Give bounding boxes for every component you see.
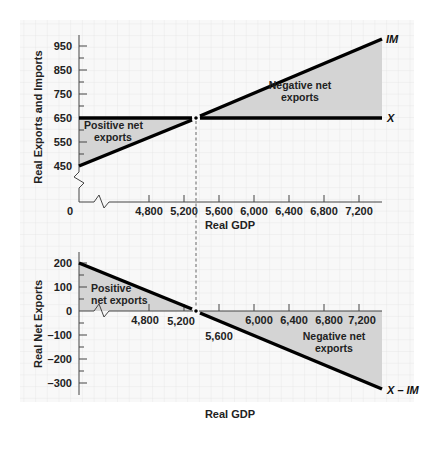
y-tick-550: 550 — [54, 136, 72, 148]
x-tick-4800: 4,800 — [135, 205, 163, 217]
bottom-negative-label-line2: exports — [315, 342, 353, 354]
top-x-axis-title: Real GDP — [205, 219, 255, 231]
bottom-x-tick-5600: 5,600 — [205, 330, 233, 342]
y-tick-minus300: –300 — [48, 377, 72, 389]
bottom-positive-label-line1: Positive — [91, 282, 131, 294]
x-tick-6000: 6,000 — [240, 205, 268, 217]
top-positive-label-line2: exports — [94, 131, 132, 143]
chart-canvas: 950 850 750 650 550 450 0 4,800 5,200 5,… — [0, 0, 444, 457]
bottom-x-tick-5200: 5,200 — [167, 315, 195, 327]
y-tick-850: 850 — [54, 64, 72, 76]
y-tick-950: 950 — [54, 40, 72, 52]
x-tick-5600: 5,600 — [205, 205, 233, 217]
intersection-point — [194, 116, 199, 121]
bottom-y-axis-title: Real Net Exports — [32, 280, 44, 368]
y-tick-200: 200 — [54, 257, 72, 269]
bottom-x-axis-title: Real GDP — [205, 408, 255, 420]
x-curve-label: X — [386, 112, 395, 124]
top-negative-label-line2: exports — [281, 91, 319, 103]
bottom-x-tick-7200: 7,200 — [348, 314, 376, 326]
top-positive-label-line1: Positive net — [84, 119, 143, 131]
bottom-x-tick-4800: 4,800 — [131, 314, 159, 326]
top-y-axis-title: Real Exports and Imports — [32, 50, 44, 183]
bottom-positive-label-line2: net exports — [91, 294, 148, 306]
y-tick-minus200: –200 — [48, 353, 72, 365]
x-tick-5200: 5,200 — [170, 205, 198, 217]
y-tick-650: 650 — [54, 112, 72, 124]
y-tick-750: 750 — [54, 88, 72, 100]
bottom-x-tick-6000: 6,000 — [245, 314, 273, 326]
y-tick-100: 100 — [54, 281, 72, 293]
y-tick-minus100: –100 — [48, 329, 72, 341]
bottom-x-tick-6800: 6,800 — [315, 314, 343, 326]
zero-crossing-point — [194, 309, 199, 314]
x-tick-7200: 7,200 — [345, 205, 373, 217]
x-minus-im-label: X – IM — [386, 384, 420, 396]
y-tick-450: 450 — [54, 160, 72, 172]
im-curve-label: IM — [386, 33, 399, 45]
x-tick-6400: 6,400 — [275, 205, 303, 217]
bottom-x-tick-6400: 6,400 — [280, 314, 308, 326]
top-negative-label-line1: Negative net — [269, 79, 332, 91]
origin-label: 0 — [67, 205, 73, 217]
y-tick-0: 0 — [66, 305, 72, 317]
x-tick-6800: 6,800 — [310, 205, 338, 217]
bottom-negative-label-line1: Negative net — [303, 330, 366, 342]
